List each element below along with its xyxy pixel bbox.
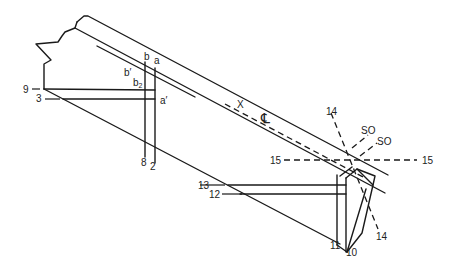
so-line-1 — [352, 135, 368, 148]
label-15-left: 15 — [270, 155, 282, 166]
so-line-2 — [360, 143, 377, 156]
label-11: 11 — [330, 240, 341, 251]
beam-top-face-edge — [75, 28, 385, 193]
label-15-right: 15 — [422, 155, 434, 166]
beam-centerline — [225, 104, 365, 178]
label-12: 12 — [209, 189, 221, 200]
end-face-diagonal — [347, 189, 366, 252]
centerline-symbol: ℄ — [260, 110, 270, 126]
label-13: 13 — [198, 180, 210, 191]
line-9 — [44, 89, 155, 90]
label-b2: b2 — [133, 77, 143, 89]
beam-top-edge — [77, 16, 388, 175]
broken-edge — [36, 22, 77, 89]
label-14-top: 14 — [326, 106, 338, 117]
label-so-2: SO — [377, 136, 392, 147]
label-3: 3 — [36, 93, 42, 104]
label-a: a — [154, 55, 160, 66]
label-14-bottom: 14 — [376, 231, 388, 242]
beam-diagram: b a b′ b2 a′ 9 3 8 2 X ℄ 14 SO SO 15 15 … — [0, 0, 456, 268]
label-8: 8 — [141, 157, 147, 168]
label-9: 9 — [23, 84, 29, 95]
label-10: 10 — [346, 247, 358, 258]
label-so-1: SO — [361, 125, 376, 136]
label-b: b — [144, 51, 150, 62]
label-x: X — [237, 99, 244, 110]
label-b-prime: b′ — [124, 67, 132, 78]
label-2: 2 — [150, 161, 156, 172]
beam-bottom-edge — [44, 89, 340, 244]
label-a-prime: a′ — [160, 95, 168, 106]
